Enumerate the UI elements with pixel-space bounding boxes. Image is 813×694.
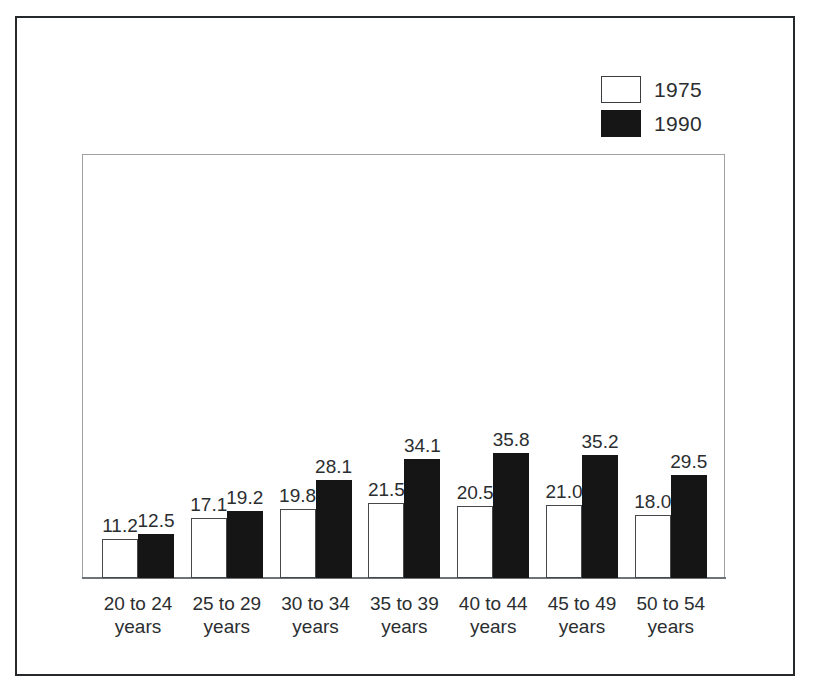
category-label-45-to-49-years: 45 to 49years	[537, 592, 627, 638]
category-label-line1: 50 to 54	[636, 593, 705, 614]
category-label-35-to-39-years: 35 to 39years	[359, 592, 449, 638]
category-label-line2: years	[537, 615, 627, 638]
legend-label-1990: 1990	[654, 113, 702, 134]
category-label-line2: years	[359, 615, 449, 638]
bar-1975-35-to-39-years	[368, 503, 404, 578]
bar-1990-25-to-29-years	[227, 511, 263, 578]
category-label-40-to-44-years: 40 to 44years	[448, 592, 538, 638]
category-label-20-to-24-years: 20 to 24years	[93, 592, 183, 638]
bar-value-label: 35.2	[574, 432, 626, 451]
bar-1975-20-to-24-years	[102, 539, 138, 578]
bar-value-label: 34.1	[396, 436, 448, 455]
category-label-line1: 30 to 34	[281, 593, 350, 614]
bar-1975-50-to-54-years	[635, 515, 671, 578]
category-label-line2: years	[626, 615, 716, 638]
category-label-30-to-34-years: 30 to 34years	[271, 592, 361, 638]
bar-1975-25-to-29-years	[191, 518, 227, 578]
chart-page: 1975 1990 11.212.517.119.219.828.121.534…	[0, 0, 813, 694]
legend-item-1975: 1975	[601, 76, 702, 103]
bar-value-label: 28.1	[308, 457, 360, 476]
bar-value-label: 29.5	[663, 452, 715, 471]
category-label-line1: 25 to 29	[192, 593, 261, 614]
bar-1990-40-to-44-years	[493, 453, 529, 578]
category-label-line1: 20 to 24	[104, 593, 173, 614]
category-label-line1: 40 to 44	[459, 593, 528, 614]
bar-1975-45-to-49-years	[546, 505, 582, 579]
bar-value-label: 35.8	[485, 430, 537, 449]
bar-1990-35-to-39-years	[404, 459, 440, 578]
bar-1990-45-to-49-years	[582, 455, 618, 578]
bar-1990-20-to-24-years	[138, 534, 174, 578]
category-label-line2: years	[271, 615, 361, 638]
legend-label-1975: 1975	[654, 79, 702, 100]
bar-1975-40-to-44-years	[457, 506, 493, 578]
category-label-50-to-54-years: 50 to 54years	[626, 592, 716, 638]
category-label-line1: 45 to 49	[548, 593, 617, 614]
legend-item-1990: 1990	[601, 110, 702, 137]
category-label-line2: years	[448, 615, 538, 638]
bar-1975-30-to-34-years	[280, 509, 316, 578]
category-label-line2: years	[182, 615, 272, 638]
bar-1990-50-to-54-years	[671, 475, 707, 578]
open-square-swatch-icon	[601, 76, 641, 103]
category-label-line1: 35 to 39	[370, 593, 439, 614]
category-label-line2: years	[93, 615, 183, 638]
filled-square-swatch-icon	[601, 110, 641, 137]
bar-1990-30-to-34-years	[316, 480, 352, 578]
category-label-25-to-29-years: 25 to 29years	[182, 592, 272, 638]
chart-legend: 1975 1990	[601, 76, 702, 137]
bar-value-label: 12.5	[130, 511, 182, 530]
bar-value-label: 19.2	[219, 488, 271, 507]
